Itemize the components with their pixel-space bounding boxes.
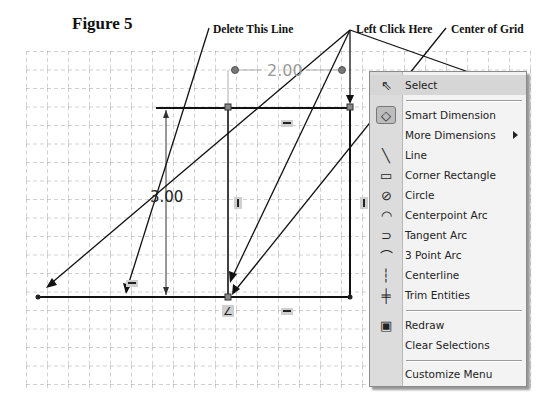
centerpoint-arc-icon: ◠ — [370, 205, 402, 225]
menu-item-circle[interactable]: ⊘ Circle — [370, 185, 526, 205]
circle-icon: ⊘ — [370, 185, 402, 205]
centerline-icon: ┆ — [370, 265, 402, 285]
menu-divider — [406, 100, 522, 102]
menu-item-trim-entities[interactable]: ╪ Trim Entities — [370, 285, 526, 305]
horizontal-dimension[interactable]: 2.00 — [267, 61, 303, 80]
tangent-arc-icon: ⊃ — [370, 225, 402, 245]
callout-delete-line: Delete This Line — [213, 23, 293, 35]
submenu-arrow-icon — [513, 131, 518, 139]
callout-left-click: Left Click Here — [356, 23, 432, 35]
menu-item-clear-selections[interactable]: Clear Selections — [370, 335, 526, 355]
menu-item-3-point-arc[interactable]: ⌒ 3 Point Arc — [370, 245, 526, 265]
coincident-relation-icon[interactable]: ∠ — [222, 305, 234, 317]
vertical-relation-icon[interactable] — [234, 197, 242, 209]
callout-center-grid: Center of Grid — [451, 23, 524, 35]
menu-item-corner-rectangle[interactable]: ▭ Corner Rectangle — [370, 165, 526, 185]
horizontal-relation-icon[interactable] — [126, 280, 138, 287]
menu-item-centerpoint-arc[interactable]: ◠ Centerpoint Arc — [370, 205, 526, 225]
context-menu: ⇖ Select ◇ Smart Dimension More Dimensio… — [369, 71, 527, 387]
menu-item-select[interactable]: ⇖ Select — [370, 75, 526, 95]
vertical-relation-icon[interactable] — [360, 197, 368, 209]
line-icon: ╲ — [370, 145, 402, 165]
menu-item-redraw[interactable]: ▣ Redraw — [370, 315, 526, 335]
three-point-arc-icon: ⌒ — [370, 245, 402, 265]
menu-item-line[interactable]: ╲ Line — [370, 145, 526, 165]
select-arrow-icon: ⇖ — [370, 75, 402, 95]
menu-divider — [406, 310, 522, 312]
menu-item-centerline[interactable]: ┆ Centerline — [370, 265, 526, 285]
menu-item-tangent-arc[interactable]: ⊃ Tangent Arc — [370, 225, 526, 245]
horizontal-relation-icon[interactable] — [281, 308, 293, 315]
figure-title: Figure 5 — [72, 14, 133, 34]
menu-divider — [406, 360, 522, 362]
trim-icon: ╪ — [370, 285, 402, 305]
horizontal-relation-icon[interactable] — [281, 120, 293, 127]
rectangle-icon: ▭ — [370, 165, 402, 185]
vertical-dimension[interactable]: 3.00 — [150, 188, 183, 206]
smart-dimension-icon: ◇ — [370, 105, 402, 125]
menu-item-customize-menu[interactable]: Customize Menu — [370, 364, 526, 384]
menu-item-more-dimensions[interactable]: More Dimensions — [370, 125, 526, 145]
redraw-icon: ▣ — [370, 315, 402, 335]
menu-item-smart-dimension[interactable]: ◇ Smart Dimension — [370, 105, 526, 125]
